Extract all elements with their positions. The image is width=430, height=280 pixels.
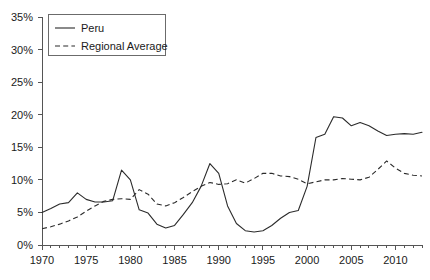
- x-tick-label: 2010: [383, 254, 407, 266]
- series-paths: [42, 117, 422, 232]
- y-tick-label: 15%: [11, 141, 33, 153]
- legend-label-regional-average: Regional Average: [81, 40, 168, 52]
- line-chart: 0%5%10%15%20%25%30%35% 19701975198019851…: [0, 0, 430, 280]
- y-tick-label: 30%: [11, 44, 33, 56]
- chart-legend: PeruRegional Average: [48, 14, 168, 55]
- series-line-peru: [42, 117, 422, 232]
- legend-label-peru: Peru: [81, 22, 104, 34]
- y-axis-tick-marks: [38, 17, 42, 245]
- y-tick-label: 35%: [11, 11, 33, 23]
- x-tick-label: 1975: [74, 254, 98, 266]
- y-tick-label: 5%: [17, 206, 33, 218]
- y-tick-label: 0%: [17, 239, 33, 251]
- x-axis-tick-labels: 197019751980198519901995200020052010: [30, 254, 408, 266]
- x-tick-label: 1990: [207, 254, 231, 266]
- x-tick-label: 2005: [339, 254, 363, 266]
- y-axis-tick-labels: 0%5%10%15%20%25%30%35%: [11, 11, 33, 251]
- y-tick-label: 20%: [11, 109, 33, 121]
- y-tick-label: 25%: [11, 76, 33, 88]
- chart-container: 0%5%10%15%20%25%30%35% 19701975198019851…: [0, 0, 430, 280]
- x-tick-label: 1980: [118, 254, 142, 266]
- x-axis-tick-marks: [42, 245, 422, 250]
- x-tick-label: 1985: [162, 254, 186, 266]
- y-tick-label: 10%: [11, 174, 33, 186]
- series-line-regional-average: [42, 161, 422, 229]
- x-tick-label: 1995: [251, 254, 275, 266]
- x-tick-label: 2000: [295, 254, 319, 266]
- x-tick-label: 1970: [30, 254, 54, 266]
